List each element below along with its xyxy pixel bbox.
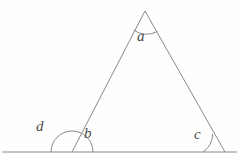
triangle-left-side [72,11,145,152]
angle-label-d: d [36,119,44,134]
angle-arc-c [203,134,213,152]
angle-label-c: c [194,127,201,142]
geometry-figure: a b c d [0,0,239,162]
triangle-diagram-svg [0,0,239,162]
angle-label-b: b [84,126,92,141]
angle-label-a: a [137,29,145,44]
